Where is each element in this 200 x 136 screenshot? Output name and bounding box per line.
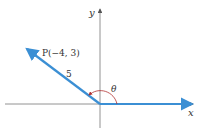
point-p-dot (33, 53, 36, 56)
angle-theta-label: θ (111, 84, 117, 94)
radius-label: 5 (66, 69, 72, 79)
point-p-label: P(−4, 3) (42, 48, 80, 58)
x-axis-label: x (188, 107, 194, 118)
unit-angle-diagram: y x P(−4, 3) 5 θ (0, 0, 200, 136)
y-axis-label: y (88, 7, 95, 18)
